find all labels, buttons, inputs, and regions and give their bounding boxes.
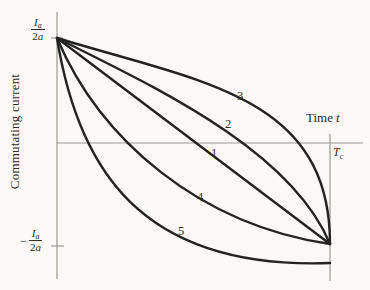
fraction-denominator: 2a — [32, 30, 43, 42]
numerator-subscript: a — [38, 21, 42, 30]
curve-label-1: 1 — [211, 146, 217, 161]
denominator-variable: a — [38, 30, 44, 42]
x-axis-title: Timet — [306, 110, 340, 126]
tc-base: T — [333, 145, 340, 159]
figure-canvas: Commutating current Ia 2a − Ia 2a Timet … — [0, 0, 370, 290]
curve-label-5: 5 — [178, 224, 184, 239]
tc-subscript: c — [340, 152, 344, 161]
curve-label-4: 4 — [197, 190, 203, 205]
fraction-denominator: 2a — [30, 241, 41, 253]
plot-svg — [0, 0, 370, 290]
y-axis-top-label: Ia 2a — [31, 17, 45, 42]
fraction-numerator: Ia — [31, 17, 45, 30]
fraction-ia-2a: Ia 2a — [31, 17, 45, 42]
tc-tick-label: Tc — [333, 145, 343, 161]
y-axis-bottom-label: − Ia 2a — [20, 228, 42, 253]
x-axis-title-variable: t — [336, 110, 340, 125]
curve-label-3: 3 — [237, 89, 243, 104]
fraction-ia-2a: Ia 2a — [29, 228, 43, 253]
numerator-subscript: a — [35, 232, 39, 241]
curve-label-2: 2 — [225, 117, 231, 132]
y-axis-title: Commutating current — [7, 66, 22, 198]
denominator-variable: a — [36, 241, 42, 253]
minus-sign: − — [20, 235, 27, 247]
x-axis-title-word: Time — [306, 110, 333, 125]
fraction-numerator: Ia — [29, 228, 43, 241]
